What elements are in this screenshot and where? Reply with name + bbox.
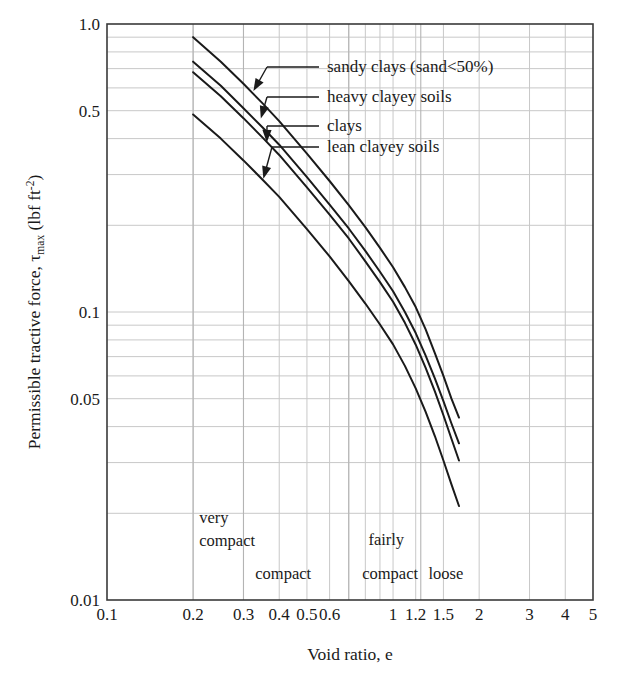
x-tick-label: 1.5 [433,605,454,624]
y-unit-open: (lbf ft [24,190,44,235]
minor-gridlines [107,24,593,600]
series-label-lean_clayey: lean clayey soils [327,137,439,156]
y-unit-close: ) [24,175,44,181]
x-tick-label: 0.6 [319,605,340,624]
x-tick-label: 0.2 [182,605,203,624]
zone-label-fairly-compact-upper: fairly [368,530,404,549]
x-tick-label: 4 [561,605,570,624]
x-tick-label: 0.3 [233,605,254,624]
tau-subscript: max [34,235,46,255]
x-tick-label: 0.5 [296,605,317,624]
series-label-clays: clays [327,116,362,135]
y-tick-label: 0.1 [79,303,100,322]
y-tick-label: 0.5 [79,102,100,121]
x-tick-label: 0.4 [269,605,291,624]
y-axis-title-group: Permissible tractive force, τmax (lbf ft… [24,175,46,450]
zone-label-compact: compact [255,564,311,583]
x-tick-label: 1.2 [405,605,426,624]
x-tick-label: 5 [589,605,598,624]
y-axis-title: Permissible tractive force, τmax (lbf ft… [24,175,46,450]
x-tick-label: 3 [525,605,534,624]
y-tick-label: 0.05 [70,390,100,409]
zone-label-very-compact: compact [199,531,255,550]
x-tick-label: 2 [475,605,484,624]
x-tick-label: 1 [389,605,398,624]
x-axis-title: Void ratio, e [307,644,393,664]
y-unit-exponent: -2 [24,180,36,190]
zone-label-very-compact: very [199,508,229,527]
chart-figure: 0.10.20.30.40.50.611.21.52345 0.010.050.… [0,0,625,686]
zone-label-loose: loose [429,564,464,583]
tau-symbol: τ [24,255,44,262]
y-tick-label: 1.0 [79,15,100,34]
series-label-heavy_clayey: heavy clayey soils [327,87,452,106]
series-label-sandy_clays: sandy clays (sand<50%) [327,57,493,76]
zone-label-fairly-compact-lower: compact [362,564,418,583]
y-tick-label: 0.01 [70,591,100,610]
y-title-main: Permissible tractive force, [24,262,44,450]
void-ratio-tractive-force-chart: 0.10.20.30.40.50.611.21.52345 0.010.050.… [0,0,625,686]
